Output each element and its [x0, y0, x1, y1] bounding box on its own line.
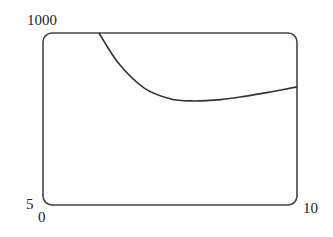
- data-curve: [99, 33, 297, 101]
- y-axis-max-label: 1000: [27, 13, 57, 28]
- x-axis-max-label: 10: [303, 201, 318, 216]
- chart-canvas: [0, 0, 333, 237]
- plot-frame: [43, 33, 297, 205]
- x-axis-min-label: 0: [38, 210, 46, 225]
- y-axis-min-label: 5: [26, 197, 34, 212]
